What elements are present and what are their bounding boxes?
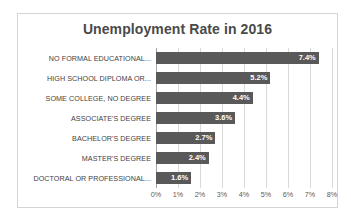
category-label-row: ASSOCIATE'S DEGREE [18, 108, 154, 128]
chart-title: Unemployment Rate in 2016 [18, 21, 337, 37]
bar[interactable]: 2.7% [156, 132, 215, 144]
category-label-row: NO FORMAL EDUCATIONAL... [18, 48, 154, 68]
bar[interactable]: 1.6% [156, 172, 191, 184]
x-tick-label: 0% [151, 190, 161, 199]
bar[interactable]: 3.6% [156, 112, 235, 124]
category-label: BACHELOR'S DEGREE [72, 134, 151, 143]
bar-row: 2.4% [156, 148, 332, 168]
category-label-row: SOME COLLEGE, NO DEGREE [18, 88, 154, 108]
bar[interactable]: 2.4% [156, 152, 209, 164]
x-tick-label: 6% [283, 190, 293, 199]
bar-row: 3.6% [156, 108, 332, 128]
category-label-row: MASTER'S DEGREE [18, 148, 154, 168]
bar-value-label: 2.4% [189, 154, 206, 162]
x-tick-label: 5% [261, 190, 271, 199]
category-label: ASSOCIATE'S DEGREE [71, 114, 151, 123]
category-label-row: HIGH SCHOOL DIPLOMA OR... [18, 68, 154, 88]
bar-value-label: 3.6% [215, 114, 232, 122]
category-label: SOME COLLEGE, NO DEGREE [46, 94, 151, 103]
x-tick-label: 3% [217, 190, 227, 199]
bar-value-label: 7.4% [299, 54, 316, 62]
category-label: NO FORMAL EDUCATIONAL... [49, 54, 151, 63]
bar-row: 5.2% [156, 68, 332, 88]
bar[interactable]: 7.4% [156, 52, 319, 64]
category-label-row: BACHELOR'S DEGREE [18, 128, 154, 148]
x-tick-label: 1% [173, 190, 183, 199]
category-label: DOCTORAL OR PROFESSIONAL... [33, 174, 151, 183]
bar-value-label: 2.7% [195, 134, 212, 142]
bar-value-label: 1.6% [171, 174, 188, 182]
bar-row: 1.6% [156, 168, 332, 188]
x-tick-label: 4% [239, 190, 249, 199]
x-axis-tick-labels: 0%1%2%3%4%5%6%7%8% [156, 190, 332, 204]
bar[interactable]: 5.2% [156, 72, 270, 84]
category-label-row: DOCTORAL OR PROFESSIONAL... [18, 168, 154, 188]
gridline [332, 48, 333, 188]
bar-value-label: 5.2% [250, 74, 267, 82]
plot-area: 7.4%5.2%4.4%3.6%2.7%2.4%1.6% [156, 48, 332, 188]
category-axis-labels: NO FORMAL EDUCATIONAL...HIGH SCHOOL DIPL… [18, 48, 154, 188]
x-tick-label: 2% [195, 190, 205, 199]
category-label: HIGH SCHOOL DIPLOMA OR... [47, 74, 151, 83]
bar-row: 4.4% [156, 88, 332, 108]
bar[interactable]: 4.4% [156, 92, 253, 104]
bar-value-label: 4.4% [233, 94, 250, 102]
x-tick-label: 7% [305, 190, 315, 199]
category-label: MASTER'S DEGREE [82, 154, 151, 163]
bar-row: 7.4% [156, 48, 332, 68]
bar-row: 2.7% [156, 128, 332, 148]
x-tick-label: 8% [327, 190, 337, 199]
chart-container: Unemployment Rate in 2016 NO FORMAL EDUC… [17, 13, 338, 208]
